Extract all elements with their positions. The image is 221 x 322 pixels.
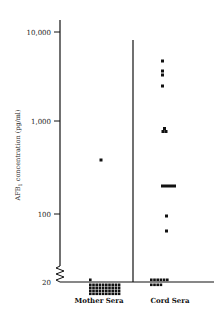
data-point bbox=[161, 185, 164, 188]
y-axis-title: AFB1 concentration (pg/ml) bbox=[14, 109, 23, 201]
data-point bbox=[150, 279, 153, 282]
data-point bbox=[95, 290, 98, 293]
data-point bbox=[89, 284, 92, 287]
data-point bbox=[92, 287, 95, 290]
data-point bbox=[164, 185, 167, 188]
data-point bbox=[165, 230, 168, 233]
data-point bbox=[163, 127, 166, 130]
cord-sera-points bbox=[161, 60, 176, 233]
data-point bbox=[105, 284, 108, 287]
tick-label-100: 100 bbox=[38, 211, 51, 219]
data-point bbox=[108, 287, 111, 290]
data-point bbox=[161, 60, 164, 63]
data-point bbox=[92, 284, 95, 287]
data-point bbox=[92, 290, 95, 293]
axis-break-icon bbox=[56, 266, 64, 282]
data-point bbox=[118, 290, 121, 293]
data-point bbox=[105, 287, 108, 290]
data-point bbox=[153, 279, 156, 282]
data-point bbox=[118, 293, 121, 296]
data-point bbox=[161, 70, 164, 73]
data-point bbox=[89, 279, 92, 282]
data-point bbox=[102, 284, 105, 287]
category-label-cord: Cord Sera bbox=[151, 296, 190, 305]
mother-sera-points bbox=[100, 159, 103, 162]
data-point bbox=[99, 293, 102, 296]
data-point bbox=[111, 290, 114, 293]
data-point bbox=[115, 287, 118, 290]
data-point bbox=[166, 279, 169, 282]
data-point bbox=[111, 284, 114, 287]
data-point bbox=[99, 290, 102, 293]
data-point bbox=[102, 290, 105, 293]
data-point bbox=[150, 284, 153, 287]
data-point bbox=[108, 293, 111, 296]
data-point bbox=[118, 287, 121, 290]
data-point bbox=[156, 284, 159, 287]
data-point bbox=[89, 290, 92, 293]
mother-sera-baseline-cluster bbox=[89, 279, 120, 296]
data-point bbox=[160, 284, 163, 287]
data-point bbox=[173, 185, 176, 188]
data-point bbox=[115, 290, 118, 293]
data-point bbox=[163, 279, 166, 282]
data-point bbox=[111, 293, 114, 296]
data-point bbox=[165, 130, 168, 133]
y-ticks: 10,000 1,000 100 20 bbox=[27, 29, 61, 287]
data-point bbox=[102, 293, 105, 296]
category-label-mother: Mother Sera bbox=[74, 296, 124, 305]
data-point bbox=[108, 284, 111, 287]
data-point bbox=[170, 185, 173, 188]
data-point bbox=[95, 284, 98, 287]
data-point bbox=[165, 215, 168, 218]
data-point bbox=[89, 293, 92, 296]
data-point bbox=[153, 284, 156, 287]
data-point bbox=[161, 85, 164, 88]
data-point bbox=[99, 284, 102, 287]
data-point bbox=[111, 287, 114, 290]
tick-label-1000: 1,000 bbox=[31, 118, 51, 126]
data-point bbox=[162, 130, 165, 133]
data-point bbox=[115, 284, 118, 287]
aflatoxin-dot-plot: 10,000 1,000 100 20 AFB1 concentration (… bbox=[0, 0, 221, 322]
data-point bbox=[92, 293, 95, 296]
data-point bbox=[95, 293, 98, 296]
data-point bbox=[100, 159, 103, 162]
data-point bbox=[105, 293, 108, 296]
data-point bbox=[99, 287, 102, 290]
data-point bbox=[102, 287, 105, 290]
data-point bbox=[95, 287, 98, 290]
data-point bbox=[108, 290, 111, 293]
data-point bbox=[160, 279, 163, 282]
data-point bbox=[156, 279, 159, 282]
data-point bbox=[89, 287, 92, 290]
tick-label-10000: 10,000 bbox=[27, 29, 52, 37]
data-point bbox=[115, 293, 118, 296]
data-point bbox=[167, 185, 170, 188]
data-point bbox=[118, 284, 121, 287]
tick-label-20: 20 bbox=[42, 279, 51, 287]
data-point bbox=[105, 290, 108, 293]
data-point bbox=[161, 74, 164, 77]
